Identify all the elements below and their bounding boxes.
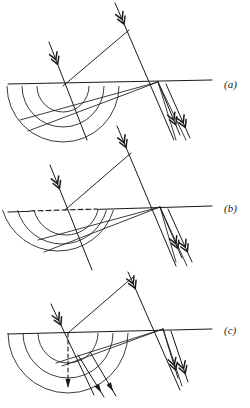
figure-background — [0, 0, 250, 408]
panel-label-c: (c) — [224, 324, 237, 337]
optics-figure: (a) (b) (c) — [0, 0, 250, 408]
panel-label-a: (a) — [224, 78, 237, 91]
panel-label-b: (b) — [224, 202, 237, 215]
